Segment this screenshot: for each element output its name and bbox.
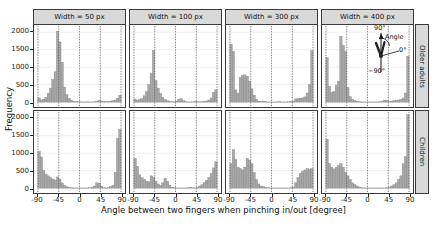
x-tick-label: 0 <box>166 196 186 204</box>
y-tick-label: 1000 <box>0 149 29 157</box>
facet-strip-label: Width = 300 px <box>244 13 299 21</box>
facet-strip-width-100: Width = 100 px <box>129 9 222 25</box>
histogram-svg <box>226 25 317 107</box>
facet-strip-label: Older adults <box>418 45 426 88</box>
y-tick-mark <box>30 85 33 86</box>
x-tick-mark <box>346 194 347 197</box>
facet-strip-label: Width = 50 px <box>54 13 104 21</box>
angle-neg90-label: −90° <box>368 67 385 75</box>
y-tick-label: 0 <box>0 185 29 193</box>
y-tick-mark <box>30 153 33 154</box>
y-tick-mark <box>30 171 33 172</box>
x-tick-label: 0 <box>262 196 282 204</box>
histogram-svg <box>130 25 221 107</box>
panel-children-width-300 <box>225 110 318 194</box>
y-tick-label: 2000 <box>0 113 29 121</box>
histogram-svg <box>34 111 125 193</box>
x-tick-label: -45 <box>48 196 68 204</box>
y-tick-label: 0 <box>0 99 29 107</box>
x-axis-title: Angle between two fingers when pinching … <box>33 205 414 215</box>
y-tick-mark <box>30 117 33 118</box>
x-tick-mark <box>37 194 38 197</box>
x-tick-mark <box>410 194 411 197</box>
x-tick-mark <box>293 194 294 197</box>
facet-strip-older-adults: Older adults <box>415 24 429 108</box>
x-tick-mark <box>58 194 59 197</box>
angle-text-label: Angle <box>385 33 404 41</box>
panel-children-width-400 <box>321 110 414 194</box>
x-tick-label: -90 <box>123 196 143 204</box>
panel-children-width-100 <box>129 110 222 194</box>
y-tick-mark <box>30 67 33 68</box>
x-tick-label: 45 <box>91 196 111 204</box>
facet-strip-width-400: Width = 400 px <box>321 9 414 25</box>
x-tick-mark <box>80 194 81 197</box>
y-tick-mark <box>30 135 33 136</box>
x-tick-label: -90 <box>219 196 239 204</box>
y-tick-label: 1000 <box>0 63 29 71</box>
x-tick-mark <box>272 194 273 197</box>
panel-older-adults-width-100 <box>129 24 222 108</box>
y-tick-label: 500 <box>0 167 29 175</box>
y-tick-label: 1500 <box>0 131 29 139</box>
x-tick-mark <box>389 194 390 197</box>
x-tick-label: 45 <box>283 196 303 204</box>
x-tick-label: 0 <box>70 196 90 204</box>
angle-0-label: 0° <box>399 46 406 54</box>
x-tick-mark <box>133 194 134 197</box>
x-tick-mark <box>368 194 369 197</box>
x-tick-label: 0 <box>358 196 378 204</box>
facet-strip-width-50: Width = 50 px <box>33 9 126 25</box>
y-tick-mark <box>30 103 33 104</box>
x-tick-mark <box>197 194 198 197</box>
faceted-histogram-chart: Frequency Angle between two fingers when… <box>0 0 441 227</box>
facet-strip-label: Width = 400 px <box>340 13 395 21</box>
histogram-svg <box>34 25 125 107</box>
facet-strip-children: Children <box>415 110 429 194</box>
y-tick-mark <box>30 49 33 50</box>
x-tick-label: -45 <box>144 196 164 204</box>
x-tick-label: -45 <box>240 196 260 204</box>
y-tick-mark <box>30 189 33 190</box>
facet-strip-width-300: Width = 300 px <box>225 9 318 25</box>
panel-older-adults-width-50 <box>33 24 126 108</box>
x-tick-label: -90 <box>315 196 335 204</box>
y-axis-title: Frequency <box>4 87 14 131</box>
y-tick-mark <box>30 31 33 32</box>
x-tick-mark <box>250 194 251 197</box>
x-tick-mark <box>325 194 326 197</box>
x-tick-mark <box>176 194 177 197</box>
histogram-svg <box>226 111 317 193</box>
facet-strip-label: Children <box>418 137 426 166</box>
x-tick-label: 45 <box>187 196 207 204</box>
x-tick-mark <box>229 194 230 197</box>
histogram-svg <box>130 111 221 193</box>
angle-legend-inset: 90° Angle 0° −90° <box>368 25 416 83</box>
x-tick-label: -90 <box>27 196 47 204</box>
x-tick-label: 90 <box>400 196 420 204</box>
panel-children-width-50 <box>33 110 126 194</box>
x-tick-label: 45 <box>379 196 399 204</box>
histogram-svg <box>322 111 413 193</box>
angle-90-label: 90° <box>374 24 386 32</box>
y-tick-label: 2000 <box>0 27 29 35</box>
panel-older-adults-width-300 <box>225 24 318 108</box>
x-tick-label: -45 <box>336 196 356 204</box>
x-tick-mark <box>154 194 155 197</box>
x-tick-mark <box>101 194 102 197</box>
y-tick-label: 500 <box>0 81 29 89</box>
facet-strip-label: Width = 100 px <box>148 13 203 21</box>
y-tick-label: 1500 <box>0 45 29 53</box>
